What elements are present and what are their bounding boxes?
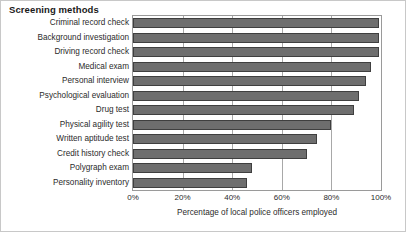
category-label: Physical agility test xyxy=(60,120,129,130)
category-label: Credit history check xyxy=(57,149,129,159)
category-label: Medical exam xyxy=(78,62,129,72)
plot-area: Criminal record checkBackground investig… xyxy=(132,15,382,191)
bar-row: Credit history check xyxy=(133,149,381,159)
x-tick-label: 80% xyxy=(323,193,339,202)
bar xyxy=(133,105,354,115)
x-tick-label: 60% xyxy=(274,193,290,202)
bar xyxy=(133,163,252,173)
category-label: Written aptitude test xyxy=(56,134,129,144)
x-axis-label: Percentage of local police officers empl… xyxy=(132,208,382,217)
bar xyxy=(133,47,379,57)
bar xyxy=(133,33,379,43)
category-label: Polygraph exam xyxy=(70,163,129,173)
bar-row: Medical exam xyxy=(133,62,381,72)
chart-title: Screening methods xyxy=(9,4,99,15)
x-tick-label: 100% xyxy=(371,193,391,202)
bar-row: Written aptitude test xyxy=(133,134,381,144)
bar-row: Criminal record check xyxy=(133,18,381,28)
x-tick-label: 40% xyxy=(224,193,240,202)
bar-row: Background investigation xyxy=(133,33,381,43)
category-label: Driving record check xyxy=(54,47,129,57)
bar-row: Physical agility test xyxy=(133,120,381,130)
bar xyxy=(133,134,317,144)
bar xyxy=(133,178,247,188)
bar-row: Polygraph exam xyxy=(133,163,381,173)
category-label: Psychological evaluation xyxy=(39,91,129,101)
bar xyxy=(133,120,331,130)
bar-rows: Criminal record checkBackground investig… xyxy=(133,16,381,190)
bar-row: Driving record check xyxy=(133,47,381,57)
category-label: Criminal record check xyxy=(50,18,129,28)
category-label: Background investigation xyxy=(38,33,130,43)
bar-row: Personality inventory xyxy=(133,178,381,188)
x-tick-label: 20% xyxy=(175,193,191,202)
category-label: Drug test xyxy=(96,105,129,115)
bar-row: Psychological evaluation xyxy=(133,91,381,101)
chart-figure: Screening methods Criminal record checkB… xyxy=(0,0,406,232)
bar-row: Personal interview xyxy=(133,76,381,86)
x-tick-label: 0% xyxy=(127,193,139,202)
category-label: Personality inventory xyxy=(53,178,129,188)
bar xyxy=(133,76,366,86)
category-label: Personal interview xyxy=(62,76,129,86)
bar xyxy=(133,149,307,159)
bar-row: Drug test xyxy=(133,105,381,115)
bar xyxy=(133,18,379,28)
bar xyxy=(133,91,359,101)
bar xyxy=(133,62,371,72)
